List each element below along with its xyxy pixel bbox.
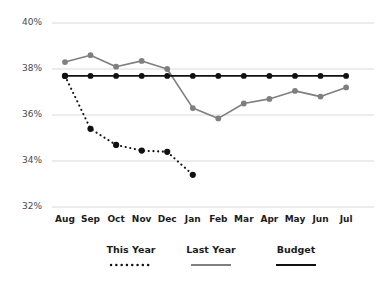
data-point — [62, 73, 68, 79]
data-point — [88, 52, 94, 58]
data-point — [139, 73, 145, 79]
data-point — [267, 73, 273, 79]
line-chart: 40%38%36%34%32% AugSepOctNovDecJanFebMar… — [0, 0, 386, 286]
data-point — [318, 94, 324, 100]
data-point — [190, 172, 196, 178]
data-point — [215, 116, 221, 122]
data-point — [62, 59, 68, 65]
data-point — [343, 73, 349, 79]
series-line — [65, 55, 346, 118]
data-point — [292, 73, 298, 79]
data-point — [113, 64, 119, 70]
x-axis-tick-label-jul: Jul — [330, 214, 362, 224]
data-point — [318, 73, 324, 79]
data-point — [241, 101, 247, 107]
data-point — [88, 73, 94, 79]
legend-item-budget[interactable]: Budget — [246, 244, 346, 269]
series-last-year — [62, 52, 349, 121]
data-point — [343, 85, 349, 91]
data-point — [190, 73, 196, 79]
legend-swatch-solid — [189, 261, 233, 269]
data-point — [87, 126, 93, 132]
legend-swatch-solid — [274, 261, 318, 269]
series-budget — [62, 73, 349, 79]
series-line — [65, 76, 193, 175]
data-point — [139, 148, 145, 154]
data-point — [113, 73, 119, 79]
data-point — [164, 149, 170, 155]
legend-swatch-dotted — [109, 261, 153, 269]
data-point — [113, 142, 119, 148]
data-point — [267, 96, 273, 102]
data-point — [241, 73, 247, 79]
series-this-year — [62, 73, 196, 178]
data-point — [164, 73, 170, 79]
data-point — [292, 88, 298, 94]
data-point — [139, 58, 145, 64]
chart-legend: This YearLast YearBudget — [0, 242, 386, 282]
data-point — [164, 66, 170, 72]
data-point — [190, 105, 196, 111]
legend-label: Budget — [246, 244, 346, 255]
data-point — [215, 73, 221, 79]
